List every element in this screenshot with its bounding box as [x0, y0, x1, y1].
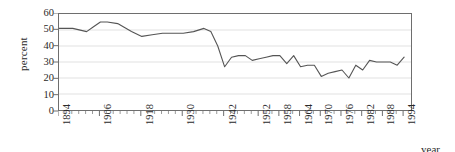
y-axis-tick-label: 30 [34, 57, 54, 67]
x-axis-tick-label: 1982 [366, 91, 376, 125]
line-chart: percent 6050403020100 year 1894190619181… [0, 0, 455, 152]
y-axis-title: percent [15, 19, 31, 89]
x-axis-tick-label: 1906 [103, 91, 113, 125]
x-axis-tick-label: 1942 [228, 91, 238, 125]
x-axis-tick-label: 1964 [304, 91, 314, 125]
y-axis-ticks [53, 13, 59, 112]
x-axis-tick-label: 1976 [345, 91, 355, 125]
x-axis-tick-label: 1952 [262, 91, 272, 125]
x-axis-tick-label: 1970 [324, 91, 334, 125]
x-axis-tick-labels: year 18941906191819301942195219581964197… [0, 111, 455, 152]
y-axis-tick-label: 20 [34, 73, 54, 83]
x-axis-tick-label: 1930 [186, 91, 196, 125]
x-axis-title: year [421, 143, 440, 152]
y-axis-tick-label: 10 [34, 90, 54, 100]
y-axis-tick-label: 40 [34, 41, 54, 51]
x-axis-ticks [58, 111, 414, 117]
x-axis-tick-label: 1894 [62, 91, 72, 125]
x-axis-tick-label: 1988 [386, 91, 396, 125]
x-axis-tick-label: 1994 [407, 91, 417, 125]
x-axis-tick-label: 1958 [283, 91, 293, 125]
gridlines [59, 30, 411, 94]
y-axis-tick-label: 60 [34, 8, 54, 18]
y-axis-tick-label: 50 [34, 24, 54, 34]
x-axis-tick-label: 1918 [145, 91, 155, 125]
